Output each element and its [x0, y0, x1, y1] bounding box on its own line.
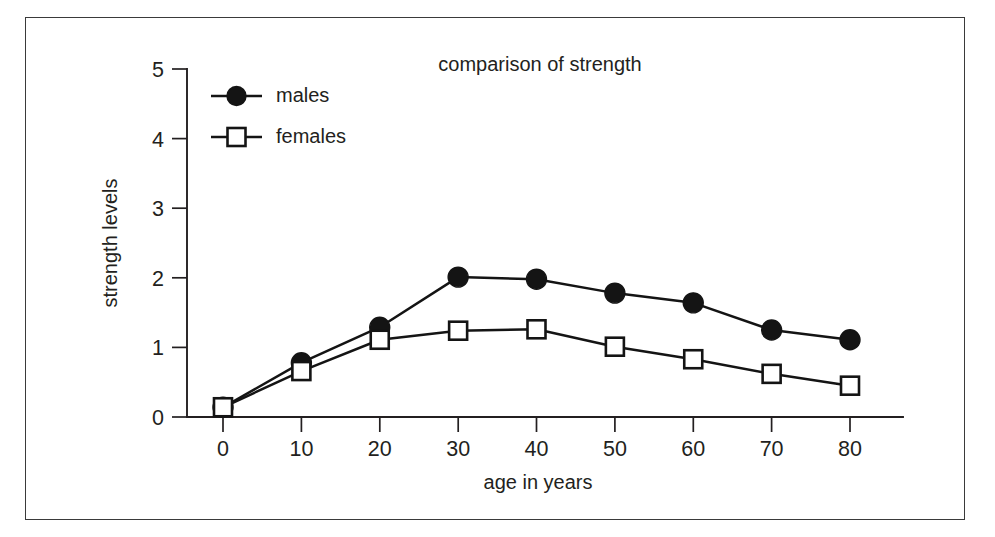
series-males [213, 267, 860, 417]
legend: males females [211, 84, 346, 147]
y-axis-title: strength levels [99, 179, 121, 308]
data-point-females-80-square-icon [841, 377, 859, 395]
data-series-layer [213, 267, 860, 417]
y-tick-label-5: 5 [152, 58, 164, 82]
data-point-females-60-square-icon [684, 350, 702, 368]
data-point-females-30-square-icon [449, 322, 467, 340]
x-tick-label-60: 60 [681, 437, 705, 461]
chart-title: comparison of strength [438, 53, 641, 75]
legend-marker-females-square-icon [228, 128, 246, 146]
y-tick-label-2: 2 [152, 267, 164, 291]
data-point-females-10-square-icon [292, 362, 310, 380]
data-point-males-80-circle-icon [840, 330, 860, 350]
y-axis-ticks: 0 1 2 3 4 5 [152, 58, 187, 430]
y-tick-label-4: 4 [152, 128, 164, 152]
x-tick-label-20: 20 [368, 437, 392, 461]
x-axis-title: age in years [484, 471, 593, 493]
legend-label-males: males [276, 84, 329, 106]
y-tick-label-1: 1 [152, 336, 164, 360]
y-tick-label-3: 3 [152, 197, 164, 221]
data-point-males-50-circle-icon [605, 283, 625, 303]
figure-page: 0 1 2 3 4 5 0 10 20 30 40 50 60 70 8 [0, 0, 995, 537]
legend-marker-males-circle-icon [227, 87, 246, 106]
strength-comparison-line-chart: 0 1 2 3 4 5 0 10 20 30 40 50 60 70 8 [0, 0, 995, 537]
x-tick-label-0: 0 [217, 437, 229, 461]
data-point-males-70-circle-icon [762, 320, 782, 340]
x-axis-ticks: 0 10 20 30 40 50 60 70 80 [217, 417, 862, 461]
data-point-females-40-square-icon [528, 320, 546, 338]
x-tick-label-40: 40 [525, 437, 549, 461]
data-point-females-20-square-icon [371, 331, 389, 349]
data-point-females-0-square-icon [214, 398, 232, 416]
x-tick-label-80: 80 [838, 437, 862, 461]
legend-label-females: females [276, 125, 346, 147]
y-tick-label-0: 0 [152, 406, 164, 430]
data-point-males-60-circle-icon [683, 293, 703, 313]
data-point-males-30-circle-icon [448, 267, 468, 287]
data-point-females-50-square-icon [606, 338, 624, 356]
x-tick-label-50: 50 [603, 437, 627, 461]
series-line-males [223, 277, 850, 407]
data-point-males-40-circle-icon [527, 269, 547, 289]
data-point-females-70-square-icon [763, 365, 781, 383]
x-tick-label-70: 70 [760, 437, 784, 461]
x-tick-label-30: 30 [446, 437, 470, 461]
x-tick-label-10: 10 [289, 437, 313, 461]
series-line-females [223, 329, 850, 407]
